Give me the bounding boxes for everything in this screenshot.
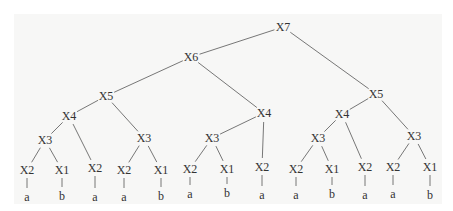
tree-node-x2: X2	[117, 164, 132, 176]
tree-leaf-a: a	[24, 191, 29, 203]
tree-node-x1: X1	[55, 164, 70, 176]
tree-node-x2: X2	[255, 161, 270, 173]
tree-leaf-a: a	[362, 189, 367, 201]
tree-edge	[51, 122, 62, 133]
tree-node-x5: X5	[369, 88, 384, 100]
tree-leaf-b: b	[158, 190, 164, 202]
tree-edge	[49, 148, 57, 162]
tree-edge	[195, 145, 207, 161]
tree-leaf-b: b	[427, 189, 433, 201]
tree-node-x1: X1	[154, 164, 169, 176]
tree-edge	[73, 124, 91, 160]
tree-edge	[382, 101, 408, 130]
tree-node-x2: X2	[20, 164, 35, 176]
tree-node-x5: X5	[99, 90, 114, 102]
tree-node-x6: X6	[184, 51, 199, 63]
tree-node-x7: X7	[276, 21, 291, 33]
tree-leaf-a: a	[259, 189, 264, 201]
tree-node-x2: X2	[183, 163, 198, 175]
tree-edge	[198, 62, 257, 107]
tree-node-x3: X3	[407, 130, 422, 142]
tree-node-x3: X3	[205, 132, 220, 144]
tree-node-x4: X4	[257, 107, 272, 119]
tree-node-x2: X2	[358, 161, 373, 173]
tree-node-x3: X3	[137, 132, 152, 144]
tree-edges	[0, 0, 453, 211]
tree-node-x2: X2	[289, 163, 304, 175]
tree-edge	[216, 146, 223, 161]
tree-leaf-a: a	[293, 189, 298, 201]
tree-edge	[129, 146, 139, 163]
tree-leaf-a: a	[121, 191, 126, 203]
tree-edge	[32, 148, 41, 163]
tree-edge	[200, 30, 275, 54]
tree-edge	[262, 122, 263, 158]
tree-edge	[114, 61, 183, 92]
tree-leaf-b: b	[329, 188, 335, 200]
tree-leaf-a: a	[92, 191, 97, 203]
tree-edge	[418, 144, 426, 159]
tree-edge	[350, 99, 368, 110]
tree-leaf-a: a	[187, 188, 192, 200]
tree-node-x3: X3	[311, 132, 326, 144]
tree-node-x4: X4	[62, 110, 77, 122]
tree-edge	[322, 146, 329, 161]
tree-node-x2: X2	[88, 162, 103, 174]
tree-edge	[346, 122, 362, 158]
tree-leaf-a: a	[390, 188, 395, 200]
tree-edge	[301, 145, 313, 161]
tree-edge	[77, 100, 98, 111]
tree-node-x1: X1	[220, 163, 235, 175]
tree-node-x1: X1	[423, 161, 438, 173]
tree-edge	[398, 143, 409, 159]
tree-node-x2: X2	[386, 161, 401, 173]
tree-node-x4: X4	[335, 108, 350, 120]
tree-node-x1: X1	[325, 163, 340, 175]
tree-leaf-b: b	[59, 190, 65, 202]
tree-leaf-b: b	[224, 187, 230, 199]
tree-node-x3: X3	[38, 134, 53, 146]
tree-edge	[290, 32, 368, 88]
tree-edge	[220, 117, 256, 134]
tree-edge	[148, 146, 157, 162]
tree-edge	[112, 103, 138, 132]
tree-edge	[324, 120, 335, 131]
